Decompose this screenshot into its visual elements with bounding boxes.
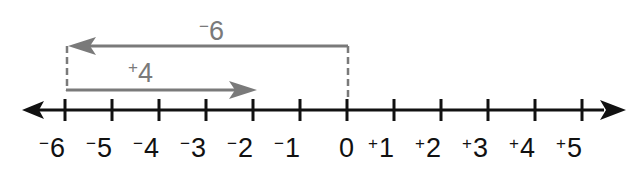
tick-sign: −: [133, 134, 143, 153]
tick-sign: +: [509, 134, 519, 153]
tick-label: −4: [133, 133, 159, 163]
tick-digit: 2: [238, 133, 253, 163]
tick-digit: 4: [144, 133, 159, 163]
tick-sign: +: [415, 134, 425, 153]
tick-digit: 6: [50, 133, 65, 163]
tick-sign: +: [556, 134, 566, 153]
plus-four-digit: 4: [138, 58, 153, 88]
tick-label: +1: [368, 133, 394, 163]
tick-sign: −: [274, 134, 284, 153]
tick-sign: +: [368, 134, 378, 153]
minus-six-operation: −6: [68, 16, 348, 100]
tick-sign: −: [227, 134, 237, 153]
tick-label: −3: [180, 133, 206, 163]
minus-six-label: −6: [199, 16, 224, 46]
tick-label: +3: [462, 133, 488, 163]
tick-digit: 3: [191, 133, 206, 163]
tick-digit: 2: [426, 133, 441, 163]
number-line-diagram: −6 +4 −6−5−4−3−2−10+1+2+3+4+5: [0, 0, 627, 187]
plus-four-label: +4: [128, 58, 153, 88]
tick-sign: −: [86, 134, 96, 153]
tick-digit: 3: [473, 133, 488, 163]
tick-label: +2: [415, 133, 441, 163]
tick-sign: −: [180, 134, 190, 153]
tick-sign: −: [39, 134, 49, 153]
tick-label: −1: [274, 133, 300, 163]
tick-sign: +: [462, 134, 472, 153]
plus-four-sign: +: [128, 58, 138, 77]
tick-label: +4: [509, 133, 535, 163]
tick-label: −6: [39, 133, 65, 163]
tick-label: 0: [339, 133, 354, 163]
tick-digit: 5: [97, 133, 112, 163]
tick-labels: −6−5−4−3−2−10+1+2+3+4+5: [39, 133, 582, 163]
tick-digit: 5: [567, 133, 582, 163]
minus-six-sign: −: [199, 17, 209, 36]
tick-digit: 1: [285, 133, 300, 163]
tick-label: −5: [86, 133, 112, 163]
tick-label: −2: [227, 133, 253, 163]
tick-digit: 4: [520, 133, 535, 163]
tick-digit: 1: [379, 133, 394, 163]
minus-six-digit: 6: [209, 16, 224, 46]
tick-label: +5: [556, 133, 582, 163]
